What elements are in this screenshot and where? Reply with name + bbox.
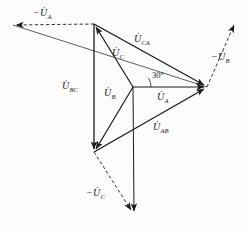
label-ub: U̇B xyxy=(104,88,115,101)
label-ubc: U̇BC xyxy=(62,81,78,94)
label-uc: U̇C xyxy=(112,48,124,61)
phasor-minus-uc xyxy=(94,152,131,210)
diagonal-ua-extension xyxy=(13,25,207,87)
label-angle-30: 30° xyxy=(152,70,164,80)
label-minus-ub: −U̇B xyxy=(211,52,229,65)
label-ua: U̇A xyxy=(157,92,168,105)
label-uab: U̇AB xyxy=(153,122,168,135)
label-minus-uc: −U̇C xyxy=(86,188,105,201)
label-minus-ua: −U̇A xyxy=(33,8,51,21)
phasor-minus-ua xyxy=(16,24,94,25)
angle-arc-30 xyxy=(149,78,151,87)
phasor-vertical-ray xyxy=(133,87,134,211)
phasor-diagram-canvas: −U̇A −U̇B −U̇C U̇CA U̇C U̇BC U̇B U̇A U̇A… xyxy=(0,0,246,229)
phasor-svg xyxy=(0,0,246,229)
label-uca: U̇CA xyxy=(134,34,150,47)
